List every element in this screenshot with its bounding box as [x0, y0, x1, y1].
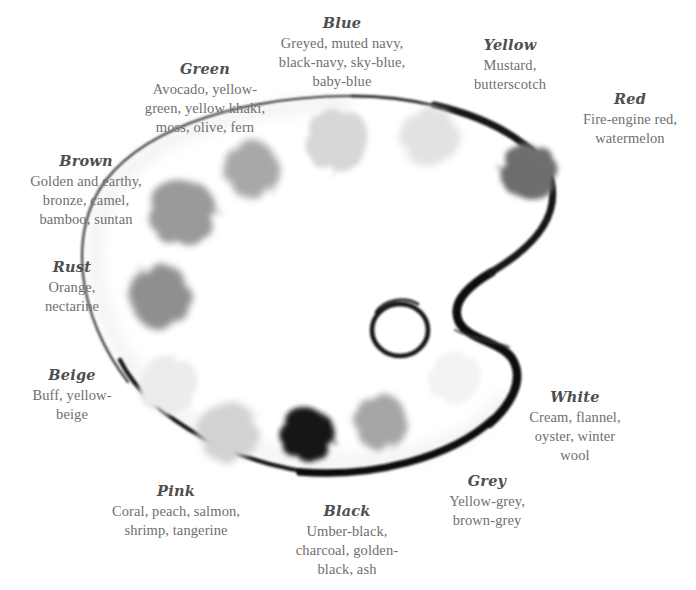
paint-blob-blue — [303, 107, 373, 179]
color-label-blue: BlueGreyed, muted navy,black-navy, sky-b… — [266, 14, 418, 90]
color-label-red: RedFire-engine red,watermelon — [567, 90, 693, 148]
color-name-red: Red — [567, 90, 693, 109]
color-description-line: charcoal, golden- — [277, 541, 417, 560]
color-description-black: Umber-black,charcoal, golden-black, ash — [277, 522, 417, 579]
color-description-line: Umber-black, — [277, 522, 417, 541]
color-description-line: wool — [514, 446, 636, 465]
paint-blob-layer — [110, 96, 560, 473]
color-name-grey: Grey — [428, 472, 546, 491]
color-name-green: Green — [126, 60, 284, 79]
color-description-brown: Golden and earthy,bronze, camel,bamboo, … — [12, 172, 160, 229]
color-description-line: butterscotch — [454, 75, 566, 94]
color-label-green: GreenAvocado, yellow-green, yellow khaki… — [126, 60, 284, 136]
paint-blob-rust — [110, 249, 203, 342]
palette-chart-page: GreenAvocado, yellow-green, yellow khaki… — [0, 0, 696, 590]
color-label-rust: RustOrange,nectarine — [22, 258, 122, 316]
paint-blob-yellow — [385, 96, 473, 183]
color-description-beige: Buff, yellow-beige — [22, 386, 122, 424]
color-description-line: Coral, peach, salmon, — [95, 502, 257, 521]
color-name-brown: Brown — [12, 152, 160, 171]
color-label-beige: BeigeBuff, yellow-beige — [22, 366, 122, 424]
color-description-green: Avocado, yellow-green, yellow khaki,moss… — [126, 80, 284, 137]
color-label-pink: PinkCoral, peach, salmon,shrimp, tangeri… — [95, 482, 257, 540]
color-description-white: Cream, flannel,oyster, winterwool — [514, 408, 636, 465]
color-label-black: BlackUmber-black,charcoal, golden-black,… — [277, 502, 417, 578]
color-description-line: bronze, camel, — [12, 191, 160, 210]
color-description-line: Buff, yellow- — [22, 386, 122, 405]
paint-blob-white — [420, 345, 490, 416]
color-description-line: Orange, — [22, 278, 122, 297]
color-name-yellow: Yellow — [454, 36, 566, 55]
paint-blob-black — [274, 398, 346, 469]
color-description-line: oyster, winter — [514, 427, 636, 446]
color-name-pink: Pink — [95, 482, 257, 501]
color-description-red: Fire-engine red,watermelon — [567, 110, 693, 148]
color-description-line: beige — [22, 405, 122, 424]
color-label-white: WhiteCream, flannel,oyster, winterwool — [514, 388, 636, 464]
color-description-line: black-navy, sky-blue, — [266, 53, 418, 72]
color-description-line: moss, olive, fern — [126, 118, 284, 137]
color-description-line: Fire-engine red, — [567, 110, 693, 129]
color-description-line: Greyed, muted navy, — [266, 34, 418, 53]
color-description-pink: Coral, peach, salmon,shrimp, tangerine — [95, 502, 257, 540]
color-name-black: Black — [277, 502, 417, 521]
color-description-line: baby-blue — [266, 72, 418, 91]
paint-blob-grey — [345, 385, 422, 463]
color-name-beige: Beige — [22, 366, 122, 385]
color-description-rust: Orange,nectarine — [22, 278, 122, 316]
paint-blob-pink — [185, 385, 274, 473]
color-description-line: Yellow-grey, — [428, 492, 546, 511]
color-label-yellow: YellowMustard,butterscotch — [454, 36, 566, 94]
color-name-blue: Blue — [266, 14, 418, 33]
color-description-line: Cream, flannel, — [514, 408, 636, 427]
palette-thumb-hole — [372, 300, 428, 356]
paint-blob-beige — [130, 345, 203, 420]
color-description-line: Golden and earthy, — [12, 172, 160, 191]
color-name-white: White — [514, 388, 636, 407]
color-description-line: brown-grey — [428, 511, 546, 530]
paint-blob-red — [492, 140, 560, 207]
color-description-line: Mustard, — [454, 56, 566, 75]
color-description-yellow: Mustard,butterscotch — [454, 56, 566, 94]
color-description-line: green, yellow khaki, — [126, 99, 284, 118]
color-description-line: black, ash — [277, 560, 417, 579]
color-description-line: watermelon — [567, 129, 693, 148]
color-name-rust: Rust — [22, 258, 122, 277]
color-label-brown: BrownGolden and earthy,bronze, camel,bam… — [12, 152, 160, 228]
paint-blob-green — [213, 127, 298, 212]
color-description-line: nectarine — [22, 297, 122, 316]
color-description-blue: Greyed, muted navy,black-navy, sky-blue,… — [266, 34, 418, 91]
color-description-line: Avocado, yellow- — [126, 80, 284, 99]
color-description-line: bamboo, suntan — [12, 210, 160, 229]
color-description-line: shrimp, tangerine — [95, 521, 257, 540]
color-label-grey: GreyYellow-grey,brown-grey — [428, 472, 546, 530]
color-description-grey: Yellow-grey,brown-grey — [428, 492, 546, 530]
